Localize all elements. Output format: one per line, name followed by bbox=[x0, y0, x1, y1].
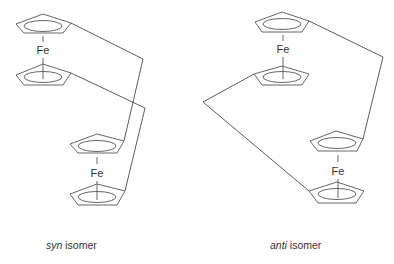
fe-label: Fe bbox=[91, 167, 104, 179]
fe-label: Fe bbox=[332, 165, 345, 177]
cyclopentadienyl-ring-icon bbox=[255, 12, 309, 32]
anti-ferrocene-lower: Fe bbox=[309, 131, 364, 203]
fe-label: Fe bbox=[37, 44, 50, 56]
syn-isomer-panel: Fe Fe syn isomer bbox=[16, 14, 145, 251]
bridge-chain-line bbox=[71, 23, 143, 141]
cyclopentadienyl-ring-icon bbox=[254, 66, 309, 85]
anti-isomer-caption: anti isomer bbox=[270, 239, 322, 251]
bridge-chain-line bbox=[71, 73, 145, 191]
anti-ferrocene-upper: Fe bbox=[254, 12, 309, 85]
cyclopentadienyl-ring-icon bbox=[309, 182, 364, 203]
cyclopentadienyl-ring-icon bbox=[70, 184, 125, 205]
isomer-diagram: Fe Fe syn isomer bbox=[0, 0, 394, 264]
cyclopentadienyl-ring-icon bbox=[16, 14, 71, 33]
bridge-chain-line bbox=[309, 21, 383, 139]
bridge-chain-line bbox=[203, 74, 309, 191]
cyclopentadienyl-ring-icon bbox=[70, 134, 124, 153]
syn-isomer-caption: syn isomer bbox=[46, 239, 97, 251]
syn-ferrocene-lower: Fe bbox=[70, 134, 125, 205]
fe-label: Fe bbox=[277, 43, 290, 55]
cyclopentadienyl-ring-icon bbox=[310, 131, 363, 151]
cyclopentadienyl-ring-icon bbox=[16, 64, 71, 85]
anti-isomer-panel: Fe Fe anti isomer bbox=[203, 12, 383, 251]
syn-ferrocene-upper: Fe bbox=[16, 14, 71, 85]
